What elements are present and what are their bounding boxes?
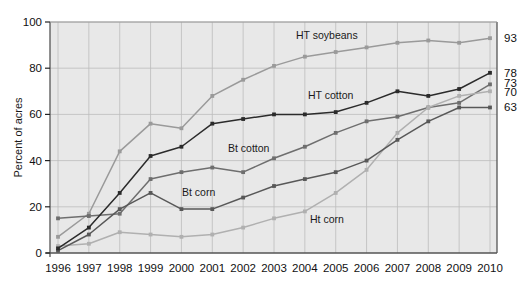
data-point xyxy=(272,113,276,117)
data-point xyxy=(365,119,369,123)
data-point xyxy=(272,184,276,188)
data-point xyxy=(118,212,122,216)
data-point xyxy=(210,94,214,98)
data-point xyxy=(334,170,338,174)
data-point xyxy=(56,235,60,239)
data-point xyxy=(180,126,184,130)
data-point xyxy=(303,113,307,117)
data-point xyxy=(180,145,184,149)
data-point xyxy=(241,117,245,121)
data-point xyxy=(118,230,122,234)
x-tick-label: 2002 xyxy=(230,262,256,274)
data-point xyxy=(396,89,400,93)
data-point xyxy=(272,64,276,68)
data-point xyxy=(396,115,400,119)
data-point xyxy=(426,94,430,98)
series-annotation-ht-soybeans: HT soybeans xyxy=(296,29,358,41)
data-point xyxy=(334,191,338,195)
data-point xyxy=(118,191,122,195)
data-point xyxy=(149,233,153,237)
x-tick-label: 2009 xyxy=(446,262,472,274)
data-point xyxy=(241,226,245,230)
x-tick-label: 2010 xyxy=(477,262,503,274)
data-point xyxy=(396,131,400,135)
data-point xyxy=(210,233,214,237)
data-point xyxy=(87,242,91,246)
data-point xyxy=(396,41,400,45)
data-point xyxy=(457,101,461,105)
series-annotation-bt-cotton: Bt cotton xyxy=(228,142,270,154)
data-point xyxy=(488,106,492,110)
data-point xyxy=(180,235,184,239)
y-tick-label: 40 xyxy=(29,155,42,167)
line-chart: 020406080100 199619971998199920002001200… xyxy=(0,0,520,289)
data-point xyxy=(488,89,492,93)
data-point xyxy=(457,106,461,110)
data-point xyxy=(210,122,214,126)
data-point xyxy=(303,145,307,149)
x-tick-label: 2003 xyxy=(261,262,287,274)
data-point xyxy=(87,233,91,237)
data-point xyxy=(426,39,430,43)
data-point xyxy=(488,71,492,75)
y-tick-label: 100 xyxy=(23,16,42,28)
data-point xyxy=(180,170,184,174)
data-point xyxy=(180,207,184,211)
data-point xyxy=(241,170,245,174)
data-point xyxy=(149,122,153,126)
data-point xyxy=(87,214,91,218)
data-point xyxy=(426,119,430,123)
data-point xyxy=(303,55,307,59)
data-point xyxy=(488,82,492,86)
data-point xyxy=(488,36,492,40)
x-tick-label: 2008 xyxy=(415,262,441,274)
data-point xyxy=(426,106,430,110)
x-tick-label: 2004 xyxy=(292,262,318,274)
end-value-label: 70 xyxy=(504,86,517,98)
data-point xyxy=(118,207,122,211)
data-point xyxy=(303,210,307,214)
data-point xyxy=(365,159,369,163)
y-tick-label: 0 xyxy=(36,247,42,259)
data-point xyxy=(56,246,60,250)
x-axis-ticks: 1996199719981999200020012002200320042005… xyxy=(45,262,503,274)
x-tick-label: 1999 xyxy=(138,262,164,274)
data-point xyxy=(365,168,369,172)
end-value-label: 93 xyxy=(504,32,517,44)
data-point xyxy=(272,216,276,220)
end-value-labels: 9378737063 xyxy=(504,32,517,113)
y-axis-title-text: Percent of acres xyxy=(12,97,24,178)
data-point xyxy=(241,78,245,82)
data-point xyxy=(334,110,338,114)
data-point xyxy=(210,166,214,170)
data-point xyxy=(149,191,153,195)
x-tick-label: 2005 xyxy=(323,262,349,274)
x-tick-label: 1996 xyxy=(45,262,71,274)
y-tick-label: 20 xyxy=(29,201,42,213)
data-point xyxy=(272,156,276,160)
data-point xyxy=(334,50,338,54)
x-tick-label: 2006 xyxy=(354,262,380,274)
x-tick-label: 1998 xyxy=(107,262,133,274)
chart-container: 020406080100 199619971998199920002001200… xyxy=(0,0,520,289)
data-point xyxy=(87,226,91,230)
x-tick-label: 1997 xyxy=(76,262,102,274)
data-point xyxy=(149,177,153,181)
data-point xyxy=(396,138,400,142)
series-annotation-ht-cotton: HT cotton xyxy=(308,89,353,101)
y-axis-ticks: 020406080100 xyxy=(23,16,50,259)
series-annotation-ht-corn: Ht corn xyxy=(310,213,344,225)
data-point xyxy=(210,207,214,211)
series-annotation-bt-corn: Bt corn xyxy=(182,186,215,198)
data-point xyxy=(118,149,122,153)
data-point xyxy=(241,196,245,200)
end-value-label: 63 xyxy=(504,101,517,113)
data-point xyxy=(365,46,369,50)
data-point xyxy=(56,216,60,220)
y-tick-label: 80 xyxy=(29,62,42,74)
data-point xyxy=(457,41,461,45)
data-point xyxy=(457,94,461,98)
x-tick-label: 2007 xyxy=(385,262,411,274)
data-point xyxy=(365,101,369,105)
y-axis-title: Percent of acres xyxy=(12,97,24,178)
